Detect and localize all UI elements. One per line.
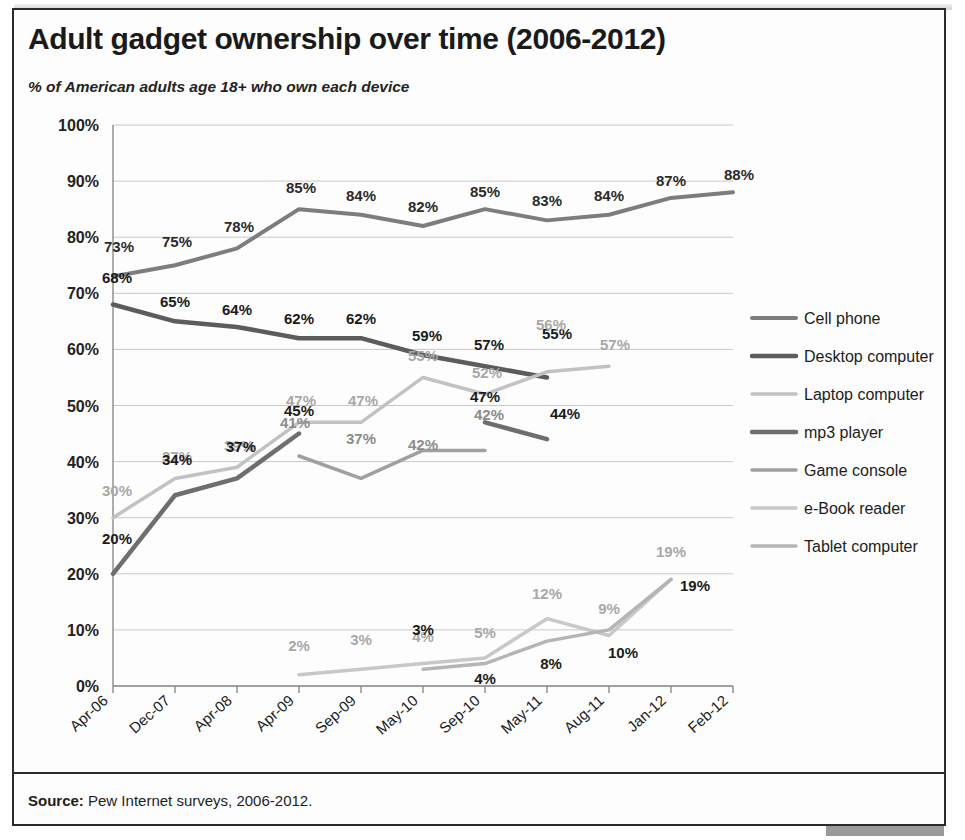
plot-area: 0%10%20%30%40%50%60%70%80%90%100% Apr-06… bbox=[0, 0, 965, 840]
data-point-label: 47% bbox=[470, 388, 500, 405]
data-point-label: 73% bbox=[104, 238, 134, 255]
data-point-label: 62% bbox=[346, 310, 376, 327]
series-line bbox=[113, 434, 299, 574]
x-axis-tick-label: Apr-08 bbox=[190, 692, 235, 735]
x-axis-tick-label: Sep-10 bbox=[436, 692, 483, 737]
data-point-label: 9% bbox=[598, 600, 620, 617]
footer-divider bbox=[14, 772, 944, 774]
data-point-label: 85% bbox=[470, 183, 500, 200]
source-label: Source: bbox=[28, 792, 84, 809]
data-point-label: 62% bbox=[284, 310, 314, 327]
legend-label[interactable]: mp3 player bbox=[804, 424, 884, 441]
data-point-label: 85% bbox=[286, 179, 316, 196]
data-point-label: 10% bbox=[608, 644, 638, 661]
data-point-label: 37% bbox=[346, 430, 376, 447]
data-point-label: 42% bbox=[408, 436, 438, 453]
legend-label[interactable]: Desktop computer bbox=[804, 348, 935, 365]
data-point-label: 55% bbox=[408, 347, 438, 364]
data-point-label: 65% bbox=[160, 293, 190, 310]
data-point-label: 30% bbox=[102, 482, 132, 499]
x-axis-tick-label: Feb-12 bbox=[684, 692, 731, 736]
chart-legend: Cell phoneDesktop computerLaptop compute… bbox=[752, 310, 935, 555]
legend-label[interactable]: Tablet computer bbox=[804, 538, 919, 555]
data-point-label: 78% bbox=[224, 218, 254, 235]
data-labels: 73%75%78%85%84%82%85%83%84%87%88%68%65%6… bbox=[102, 166, 754, 686]
y-axis-tick-label: 80% bbox=[67, 229, 99, 246]
data-point-label: 41% bbox=[280, 414, 310, 431]
data-point-label: 44% bbox=[550, 405, 580, 422]
y-axis-tick-label: 40% bbox=[67, 454, 99, 471]
data-point-label: 68% bbox=[102, 269, 132, 286]
data-point-label: 56% bbox=[536, 316, 566, 333]
y-axis-tick-label: 100% bbox=[58, 117, 99, 134]
x-axis-tick-label: Apr-06 bbox=[66, 692, 111, 735]
x-axis-tick-label: Sep-09 bbox=[312, 692, 359, 737]
data-point-label: 84% bbox=[594, 187, 624, 204]
data-point-label: 5% bbox=[474, 624, 496, 641]
data-point-label: 3% bbox=[350, 631, 372, 648]
x-axis-tick-label: Dec-07 bbox=[126, 692, 173, 737]
data-point-label: 57% bbox=[474, 336, 504, 353]
data-point-label: 19% bbox=[680, 577, 710, 594]
data-point-label: 4% bbox=[474, 670, 496, 687]
y-axis-tick-label: 10% bbox=[67, 622, 99, 639]
data-point-label: 8% bbox=[540, 655, 562, 672]
series-line bbox=[485, 422, 547, 439]
data-point-label: 87% bbox=[656, 172, 686, 189]
data-point-label: 20% bbox=[102, 530, 132, 547]
y-axis-tick-label: 90% bbox=[67, 173, 99, 190]
data-point-label: 57% bbox=[600, 336, 630, 353]
data-point-label: 47% bbox=[348, 392, 378, 409]
data-point-label: 37% bbox=[226, 438, 256, 455]
data-point-label: 42% bbox=[474, 406, 504, 423]
source-text: Pew Internet surveys, 2006-2012. bbox=[84, 792, 312, 809]
x-axis-tick-label: Aug-11 bbox=[561, 692, 608, 736]
x-axis-tick-label: May-10 bbox=[372, 692, 421, 738]
data-point-label: 52% bbox=[472, 364, 502, 381]
data-point-label: 3% bbox=[412, 621, 434, 638]
x-axis-tick-label: Jan-12 bbox=[624, 692, 669, 735]
legend-label[interactable]: Game console bbox=[804, 462, 907, 479]
legend-label[interactable]: e-Book reader bbox=[804, 500, 906, 517]
data-point-label: 84% bbox=[346, 187, 376, 204]
data-point-label: 19% bbox=[656, 543, 686, 560]
series-line bbox=[299, 450, 485, 478]
data-point-label: 83% bbox=[532, 192, 562, 209]
data-point-label: 59% bbox=[412, 327, 442, 344]
y-axis-tick-label: 0% bbox=[76, 678, 99, 695]
data-point-label: 12% bbox=[532, 585, 562, 602]
chart-page: Adult gadget ownership over time (2006-2… bbox=[0, 0, 965, 840]
legend-label[interactable]: Cell phone bbox=[804, 310, 881, 327]
line-chart: 0%10%20%30%40%50%60%70%80%90%100% Apr-06… bbox=[0, 0, 965, 840]
data-point-label: 88% bbox=[724, 166, 754, 183]
data-point-label: 75% bbox=[162, 233, 192, 250]
x-axis-tick-label: Apr-09 bbox=[252, 692, 297, 735]
y-axis-tick-label: 30% bbox=[67, 510, 99, 527]
x-axis-ticks: Apr-06Dec-07Apr-08Apr-09Sep-09May-10Sep-… bbox=[66, 692, 731, 738]
data-series bbox=[113, 192, 733, 674]
legend-label[interactable]: Laptop computer bbox=[804, 386, 925, 403]
page-edge-marker bbox=[826, 826, 944, 836]
source-note: Source: Pew Internet surveys, 2006-2012. bbox=[28, 792, 312, 809]
data-point-label: 2% bbox=[288, 637, 310, 654]
x-axis-tick-label: May-11 bbox=[497, 692, 545, 737]
data-point-label: 64% bbox=[222, 301, 252, 318]
y-axis-tick-label: 60% bbox=[67, 341, 99, 358]
y-axis-tick-label: 50% bbox=[67, 398, 99, 415]
data-point-label: 34% bbox=[162, 451, 192, 468]
y-axis-ticks: 0%10%20%30%40%50%60%70%80%90%100% bbox=[58, 117, 99, 695]
y-axis-tick-label: 70% bbox=[67, 285, 99, 302]
data-point-label: 82% bbox=[408, 198, 438, 215]
y-axis-tick-label: 20% bbox=[67, 566, 99, 583]
